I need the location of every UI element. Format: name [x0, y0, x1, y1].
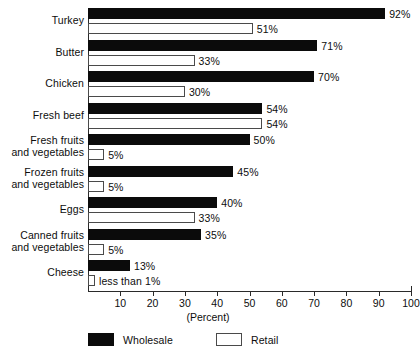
x-axis-tick: [185, 291, 186, 296]
bar-wholesale: [88, 197, 217, 208]
bar-value-label: 70%: [318, 72, 339, 83]
bar-retail: [88, 55, 195, 66]
category-axis-labels: TurkeyButterChickenFresh beefFresh fruit…: [0, 0, 84, 290]
bar-value-label: 71%: [321, 41, 342, 52]
legend-swatch-white: [216, 333, 242, 346]
bar-value-label: 54%: [266, 119, 287, 130]
bar-retail: [88, 118, 262, 129]
x-axis-tick-label: 30: [179, 297, 191, 309]
category-label: Butter: [0, 47, 84, 59]
x-axis-tick-label: 10: [114, 297, 126, 309]
bar-value-label: 30%: [189, 87, 210, 98]
x-axis-tick-label: 100: [402, 297, 420, 309]
bar-value-label: 51%: [257, 24, 278, 35]
bar-value-label: less than 1%: [99, 276, 160, 287]
x-axis-tick-label: 40: [211, 297, 223, 309]
bar-retail: [88, 275, 95, 286]
x-axis-tick: [217, 291, 218, 296]
bar-retail: [88, 86, 185, 97]
bar-wholesale: [88, 229, 201, 240]
bar-wholesale: [88, 8, 385, 19]
bar-value-label: 35%: [205, 230, 226, 241]
legend-swatch-black: [88, 333, 114, 346]
x-axis-tick-label: 80: [341, 297, 353, 309]
x-axis-tick: [153, 291, 154, 296]
x-axis-tick: [314, 291, 315, 296]
x-axis-tick-label: 70: [308, 297, 320, 309]
chart-legend: WholesaleRetail: [0, 333, 416, 355]
x-axis-tick-label: 20: [147, 297, 159, 309]
bar-retail: [88, 23, 253, 34]
bar-value-label: 54%: [266, 104, 287, 115]
category-label: Chicken: [0, 78, 84, 90]
category-label: Turkey: [0, 15, 84, 27]
x-axis-tick: [379, 291, 380, 296]
category-label: Fresh fruitsand vegetables: [0, 135, 84, 158]
bar-wholesale: [88, 103, 262, 114]
category-label: Frozen fruitsand vegetables: [0, 167, 84, 190]
legend-item: Retail: [216, 333, 278, 346]
bar-value-label: 13%: [134, 261, 155, 272]
legend-item: Wholesale: [88, 333, 173, 346]
bar-wholesale: [88, 166, 233, 177]
x-axis-tick: [120, 291, 121, 296]
bar-value-label: 5%: [108, 182, 123, 193]
bar-value-label: 5%: [108, 150, 123, 161]
x-axis-title: (Percent): [0, 311, 416, 323]
bar-wholesale: [88, 40, 317, 51]
bar-wholesale: [88, 71, 314, 82]
category-label: Eggs: [0, 204, 84, 216]
bar-value-label: 33%: [199, 213, 220, 224]
bar-value-label: 50%: [254, 135, 275, 146]
bar-value-label: 5%: [108, 245, 123, 256]
bar-value-label: 33%: [199, 56, 220, 67]
bar-value-label: 92%: [389, 9, 410, 20]
bar-retail: [88, 244, 104, 255]
category-label: Cheese: [0, 267, 84, 279]
legend-label: Retail: [251, 334, 278, 346]
plot-area: 92%71%70%54%50%45%40%35%13%51%33%30%54%5…: [88, 8, 411, 290]
x-axis-tick-label: 90: [373, 297, 385, 309]
x-axis-tick-label: 60: [276, 297, 288, 309]
bar-wholesale: [88, 134, 250, 145]
x-axis-tick: [282, 291, 283, 296]
bar-value-label: 45%: [237, 167, 258, 178]
bar-retail: [88, 181, 104, 192]
x-axis-tick: [411, 291, 412, 296]
bar-retail: [88, 149, 104, 160]
x-axis-tick: [346, 291, 347, 296]
bar-value-label: 40%: [221, 198, 242, 209]
category-label: Canned fruitsand vegetables: [0, 230, 84, 253]
category-label: Fresh beef: [0, 110, 84, 122]
bar-retail: [88, 212, 195, 223]
x-axis-tick-label: 50: [244, 297, 256, 309]
x-axis-tick: [250, 291, 251, 296]
legend-label: Wholesale: [123, 334, 173, 346]
bar-wholesale: [88, 260, 130, 271]
